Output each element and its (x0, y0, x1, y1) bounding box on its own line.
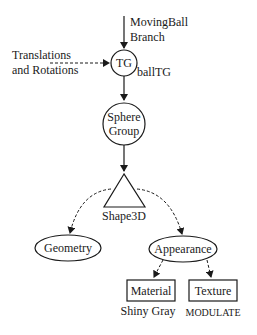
geometry-node: Geometry (35, 235, 101, 261)
side-input-label-line1: Translations (12, 48, 71, 62)
texture-node: Texture (189, 280, 237, 301)
texture-label: Texture (195, 284, 231, 298)
appearance-label: Appearance (154, 242, 211, 256)
tg-node-name: ballTG (137, 65, 171, 79)
scene-graph-diagram: MovingBall Branch Translations and Rotat… (0, 0, 257, 335)
material-note: Shiny Gray (121, 304, 176, 318)
tg-node: TG (111, 50, 137, 76)
side-input-label-line2: and Rotations (12, 63, 79, 77)
sphere-group-label-line2: Group (109, 124, 140, 138)
sphere-group-node: Sphere Group (103, 103, 145, 145)
appearance-to-material-arrow (154, 260, 163, 277)
shape3d-node (104, 174, 145, 207)
shape3d-label: Shape3D (102, 209, 146, 223)
entry-label-line2: Branch (130, 30, 165, 44)
appearance-to-texture-arrow (207, 260, 211, 277)
material-node: Material (127, 280, 175, 301)
tg-node-label: TG (116, 56, 132, 70)
material-label: Material (131, 284, 172, 298)
geometry-label: Geometry (44, 241, 92, 255)
appearance-node: Appearance (149, 236, 217, 262)
texture-note: MODULATE (186, 307, 241, 318)
sphere-group-label-line1: Sphere (107, 110, 140, 124)
entry-label-line1: MovingBall (130, 15, 189, 29)
